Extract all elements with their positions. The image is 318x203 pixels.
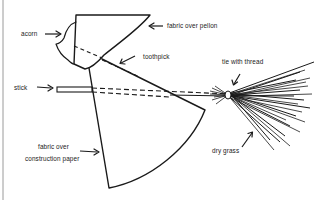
grass-strand xyxy=(230,72,300,96)
arrow-dry-grass xyxy=(242,133,252,147)
label-construction-paper: construction paper xyxy=(25,156,79,162)
label-stick: stick xyxy=(14,85,27,91)
skirt-construction-paper-shape xyxy=(89,59,205,188)
label-fabric-over: fabric over xyxy=(38,144,69,150)
broom-figure-diagram xyxy=(0,0,318,203)
stick-solid xyxy=(57,87,92,92)
label-dry-grass: dry grass xyxy=(212,148,239,154)
label-tie-with-thread: tie with thread xyxy=(222,59,263,65)
grass-strand xyxy=(229,96,294,97)
label-acorn: acorn xyxy=(21,31,38,37)
grass-strand xyxy=(230,95,290,147)
label-toothpick: toothpick xyxy=(143,54,169,60)
acorn-shape xyxy=(56,22,76,64)
arrows xyxy=(37,23,253,155)
arrow-stick xyxy=(37,87,51,88)
arrow-toothpick xyxy=(121,56,135,63)
dry-grass-bundle xyxy=(210,62,314,150)
stick-dash-bottom xyxy=(92,92,170,97)
label-fabric-over-pellon: fabric over pellon xyxy=(167,23,217,29)
thread-tie-knot xyxy=(225,91,231,99)
hat-pellon-shape xyxy=(74,15,150,69)
toothpick-dash-1 xyxy=(74,46,102,58)
arrow-fabric-construction xyxy=(80,151,97,152)
